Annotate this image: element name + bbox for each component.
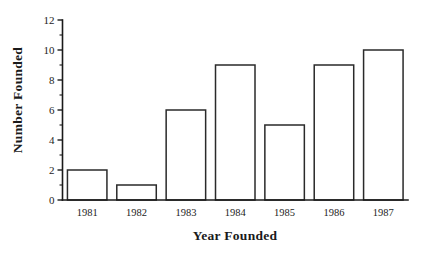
y-axis-ticks: 024681012: [44, 14, 63, 206]
bar: [364, 50, 403, 200]
x-tick-label: 1987: [373, 207, 394, 218]
x-tick-label: 1983: [175, 207, 196, 218]
x-tick-label: 1985: [274, 207, 295, 218]
y-tick-label: 2: [49, 164, 55, 176]
x-axis-ticks: 1981198219831984198519861987: [77, 207, 394, 218]
bar-series: [67, 50, 403, 200]
y-tick-label: 12: [44, 14, 55, 26]
bar: [314, 65, 353, 200]
bar-chart-plot: 024681012 1981198219831984198519861987: [0, 0, 425, 255]
y-tick-label: 0: [49, 194, 55, 206]
x-tick-label: 1986: [323, 207, 344, 218]
y-tick-label: 4: [49, 134, 55, 146]
bar: [166, 110, 205, 200]
y-tick-label: 10: [44, 44, 56, 56]
x-tick-label: 1982: [126, 207, 147, 218]
bar: [117, 185, 156, 200]
bar: [265, 125, 304, 200]
y-tick-label: 8: [49, 74, 55, 86]
chart-figure: Number Founded Year Founded 024681012 19…: [0, 0, 425, 255]
x-tick-label: 1984: [225, 207, 247, 218]
y-tick-label: 6: [49, 104, 55, 116]
x-tick-label: 1981: [77, 207, 98, 218]
bar: [216, 65, 255, 200]
bar: [67, 170, 106, 200]
